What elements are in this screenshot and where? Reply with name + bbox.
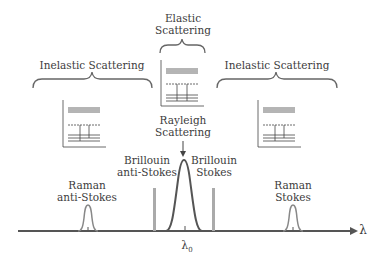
brillouin-anti-line1: Brillouin [117, 154, 177, 166]
rayleigh-arrow-icon [180, 151, 186, 157]
right-group-label: Inelastic Scattering [225, 59, 330, 71]
brillouin-anti-stokes-bar [153, 188, 156, 231]
brillouin-stokes-label: Brillouin Stokes [191, 154, 237, 178]
rayleigh-label-line2: Scattering [155, 126, 211, 138]
center-brace [160, 39, 205, 53]
lambda-zero-subscript: 0 [188, 246, 192, 254]
left-group-label: Inelastic Scattering [40, 59, 145, 71]
center-group-label-line2: Scattering [155, 24, 211, 36]
brillouin-anti-line2: anti-Stokes [117, 166, 177, 178]
rayleigh-label: Rayleigh Scattering [155, 114, 211, 138]
stokes-panel-diagram [258, 100, 301, 147]
brillouin-anti-stokes-label: Brillouin anti-Stokes [117, 154, 177, 178]
raman-stokes-label: Raman Stokes [274, 179, 311, 203]
brillouin-stokes-bar [212, 188, 215, 231]
lambda-zero-symbol: λ [181, 239, 188, 252]
rayleigh-label-line1: Rayleigh [155, 114, 211, 126]
raman-stokes-line1: Raman [274, 179, 311, 191]
lambda-zero-label: λ0 [181, 240, 192, 256]
raman-anti-stokes-label: Raman anti-Stokes [57, 179, 117, 203]
rayleigh-panel-diagram [161, 60, 204, 106]
center-group-label-line1: Elastic [155, 12, 211, 24]
axis-lambda-label: λ [359, 224, 367, 236]
center-group-label: Elastic Scattering [155, 12, 211, 36]
anti-stokes-panel-diagram [63, 100, 106, 147]
raman-anti-line1: Raman [57, 179, 117, 191]
brillouin-stokes-line2: Stokes [191, 166, 237, 178]
axis-arrow-icon [350, 227, 358, 235]
brillouin-stokes-line1: Brillouin [191, 154, 237, 166]
right-brace [217, 72, 337, 88]
left-brace [33, 72, 152, 88]
raman-anti-line2: anti-Stokes [57, 191, 117, 203]
raman-stokes-line2: Stokes [274, 191, 311, 203]
